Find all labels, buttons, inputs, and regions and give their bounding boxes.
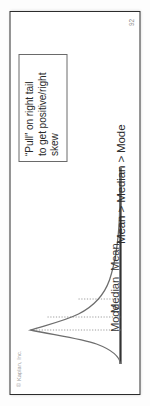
callout-line-3: skew (49, 60, 62, 156)
slide-rotation-wrapper: © Kaplan, Inc. 92 Mode Me (0, 0, 150, 406)
slide-page-number: 92 (128, 19, 135, 26)
relation-statement: Mean > Median > Mode (115, 125, 127, 244)
callout-line-1: “Pull” on right tail (24, 60, 37, 156)
callout-textbox: “Pull” on right tail to get positive/rig… (19, 54, 68, 162)
label-mean: Mean (109, 243, 121, 271)
presentation-slide: © Kaplan, Inc. 92 Mode Me (10, 11, 141, 395)
label-median: Median (109, 277, 121, 313)
photographed-page: © Kaplan, Inc. 92 Mode Me (0, 0, 150, 406)
callout-line-2: to get positive/right (36, 60, 49, 156)
